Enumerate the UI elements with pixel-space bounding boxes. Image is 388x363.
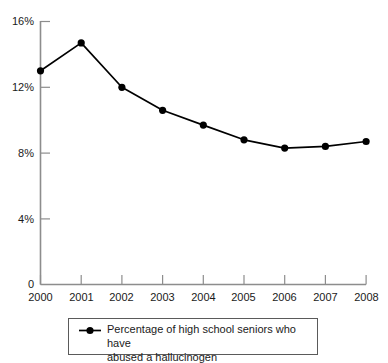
y-tick-label-16: 16% xyxy=(0,16,34,27)
data-point-2005 xyxy=(240,136,247,143)
data-point-2006 xyxy=(281,145,288,152)
data-point-2003 xyxy=(159,107,166,114)
series-markers xyxy=(37,39,370,151)
data-series-hallucinogen xyxy=(0,0,388,310)
plot-area: 16% 12% 8% 4% 0 2000 2001 2002 2003 2004… xyxy=(0,0,388,310)
legend-label-line-2: abused a hallucinogen xyxy=(107,351,217,363)
data-point-2000 xyxy=(37,67,44,74)
data-point-2008 xyxy=(363,138,370,145)
legend-entry-hallucinogen: Percentage of high school seniors who ha… xyxy=(69,319,319,356)
legend-marker-icon xyxy=(77,324,103,337)
data-point-2007 xyxy=(322,143,329,150)
data-point-2004 xyxy=(200,122,207,129)
y-tick-label-4: 4% xyxy=(0,214,34,225)
chart-figure: 16% 12% 8% 4% 0 2000 2001 2002 2003 2004… xyxy=(0,0,388,363)
chart-legend: Percentage of high school seniors who ha… xyxy=(68,318,318,355)
legend-label: Percentage of high school seniors who ha… xyxy=(107,322,312,363)
y-tick-label-0: 0 xyxy=(0,279,34,290)
y-tick-label-12: 12% xyxy=(0,82,34,93)
data-point-2001 xyxy=(78,39,85,46)
y-tick-label-8: 8% xyxy=(0,148,34,159)
legend-label-line-1: Percentage of high school seniors who ha… xyxy=(107,323,296,349)
data-point-2002 xyxy=(118,84,125,91)
series-line xyxy=(41,43,367,148)
x-tick-label-2008: 2008 xyxy=(340,291,388,303)
